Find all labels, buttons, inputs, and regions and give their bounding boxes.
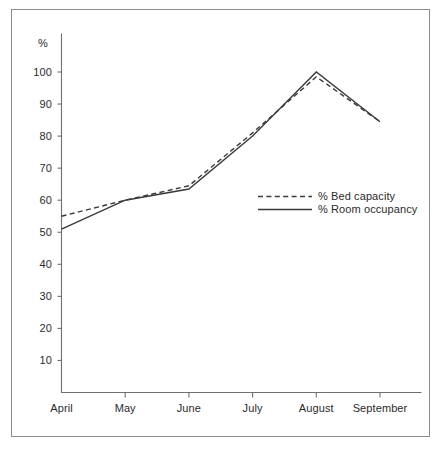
y-axis-unit-label: % bbox=[38, 38, 48, 49]
chart-figure: % 102030405060708090100 AprilMayJuneJuly… bbox=[0, 0, 442, 458]
x-axis-tick-marks bbox=[125, 393, 380, 398]
legend-label-room-occupancy: % Room occupancy bbox=[318, 204, 417, 215]
chart-plot-area bbox=[0, 0, 442, 458]
y-tick-label-30: 30 bbox=[22, 291, 52, 302]
y-tick-label-100: 100 bbox=[22, 67, 52, 78]
x-tick-label-september: September bbox=[335, 403, 425, 414]
y-tick-label-20: 20 bbox=[22, 323, 52, 334]
y-axis-tick-marks bbox=[58, 72, 62, 360]
y-tick-label-10: 10 bbox=[22, 355, 52, 366]
y-tick-label-40: 40 bbox=[22, 259, 52, 270]
y-tick-label-60: 60 bbox=[22, 195, 52, 206]
y-tick-label-80: 80 bbox=[22, 131, 52, 142]
y-tick-label-90: 90 bbox=[22, 99, 52, 110]
y-tick-label-50: 50 bbox=[22, 227, 52, 238]
legend-label-bed-capacity: % Bed capacity bbox=[318, 191, 395, 202]
y-tick-label-70: 70 bbox=[22, 163, 52, 174]
